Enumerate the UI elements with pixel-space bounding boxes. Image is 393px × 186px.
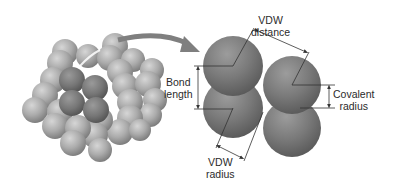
vdw-distance-label: VDW distance	[251, 14, 290, 38]
covalent-radius-label: Covalent radius	[333, 88, 374, 112]
diagram-canvas: VDW distance Bond length Covalent radius…	[0, 0, 393, 186]
bond-length-label: Bond length	[164, 76, 193, 100]
highlighted-atom	[59, 90, 85, 116]
molecule-pair	[203, 36, 321, 157]
highlighted-atom	[83, 97, 109, 123]
crystal-lattice	[22, 33, 167, 162]
highlighted-atom	[59, 67, 85, 93]
vdw-radius-label: VDW radius	[206, 156, 235, 180]
